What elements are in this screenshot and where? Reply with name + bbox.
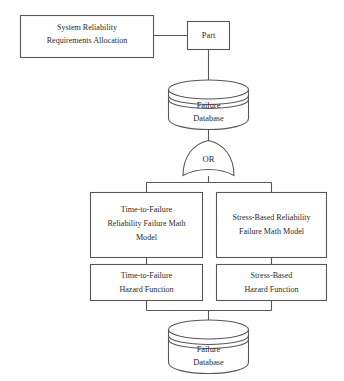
stress-math-model-line-1: Stress-Based Reliability bbox=[232, 213, 311, 222]
stress-hazard-function-line-2: Hazard Function bbox=[244, 285, 298, 294]
database-top-cap bbox=[169, 80, 249, 99]
node-ttf-hazard-function[interactable]: Time-to-Failure Hazard Function bbox=[91, 265, 203, 301]
system-requirements-line-2: Requirements Allocation bbox=[47, 36, 128, 45]
or-gate-label: OR bbox=[203, 154, 215, 164]
part-label: Part bbox=[202, 31, 216, 40]
system-requirements-line-1: System Reliability bbox=[57, 23, 118, 32]
node-stress-hazard-function[interactable]: Stress-Based Hazard Function bbox=[217, 265, 327, 301]
node-or-gate[interactable]: OR bbox=[183, 141, 234, 176]
database-bottom-line-2: Database bbox=[193, 358, 224, 367]
ttf-hazard-function-line-2: Hazard Function bbox=[119, 285, 173, 294]
database-top-line-2: Database bbox=[193, 114, 224, 123]
ttf-hazard-function-line-1: Time-to-Failure bbox=[121, 271, 173, 280]
database-bottom-line-1: Failure bbox=[197, 345, 221, 354]
node-failure-database-bottom[interactable]: Failure Database bbox=[169, 320, 249, 374]
stress-math-model-line-2: Failure Math Model bbox=[239, 227, 305, 236]
node-system-requirements[interactable]: System Reliability Requirements Allocati… bbox=[21, 16, 154, 58]
node-part[interactable]: Part bbox=[188, 22, 230, 50]
database-bottom-cap bbox=[169, 320, 249, 339]
ttf-math-model-line-3: Model bbox=[136, 233, 158, 242]
node-failure-database-top[interactable]: Failure Database bbox=[169, 80, 249, 130]
ttf-math-model-line-2: Reliability Failure Math bbox=[107, 219, 185, 228]
node-ttf-math-model[interactable]: Time-to-Failure Reliability Failure Math… bbox=[91, 193, 203, 258]
stress-hazard-function-line-1: Stress-Based bbox=[251, 271, 293, 280]
node-stress-math-model[interactable]: Stress-Based Reliability Failure Math Mo… bbox=[217, 193, 327, 258]
ttf-math-model-line-1: Time-to-Failure bbox=[121, 205, 173, 214]
stress-math-model-box[interactable] bbox=[217, 193, 327, 258]
reliability-flow-diagram: System Reliability Requirements Allocati… bbox=[0, 0, 344, 381]
database-top-line-1: Failure bbox=[197, 101, 221, 110]
